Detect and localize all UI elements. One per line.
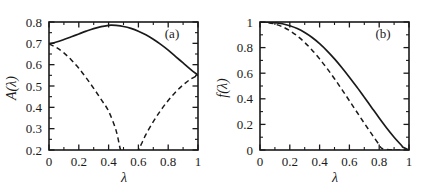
x-tick-label: 0.2 [71, 154, 87, 169]
y-tick-label: 0.3 [26, 121, 42, 136]
y-tick-label: 0.6 [237, 66, 254, 81]
panel-b-axes [260, 22, 409, 150]
x-tick-label: 0.8 [371, 154, 387, 169]
x-tick-label: 0 [46, 154, 53, 169]
panel-a-tag: (a) [165, 26, 179, 41]
x-tick-label: 0.6 [341, 154, 358, 169]
panel-b-tag: (b) [375, 26, 390, 41]
panel-b-ylabel: f(λ) [215, 78, 231, 98]
x-tick-label: 0.6 [130, 154, 147, 169]
x-tick-label: 1 [406, 154, 413, 169]
y-tick-label: 0.8 [237, 40, 253, 55]
x-tick-label: 0 [257, 154, 264, 169]
x-tick-label: 0.4 [100, 154, 117, 169]
panel-a-xlabel: λ [120, 170, 127, 185]
x-tick-label: 0.4 [311, 154, 328, 169]
y-tick-label: 0.5 [26, 79, 42, 94]
panel-a-svg: 00.20.40.60.810.20.30.40.50.60.70.8 (a) … [0, 0, 211, 192]
panel-a-curves [49, 25, 198, 158]
y-tick-label: 1 [247, 15, 254, 30]
curve-dashed [49, 44, 198, 158]
panel-b-xlabel: λ [331, 170, 338, 185]
x-tick-label: 0.2 [282, 154, 298, 169]
panel-a-ylabel: A(λ) [4, 76, 20, 101]
curve-solid [260, 22, 409, 150]
x-tick-label: 0.8 [160, 154, 176, 169]
y-tick-label: 0.2 [26, 143, 42, 158]
y-tick-label: 0.4 [237, 91, 254, 106]
curve-dashed [260, 22, 409, 150]
y-tick-label: 0.7 [26, 36, 43, 51]
y-tick-label: 0.6 [26, 57, 43, 72]
panel-a-axes [49, 22, 198, 150]
y-tick-label: 0.2 [237, 117, 253, 132]
y-tick-label: 0.4 [26, 100, 43, 115]
figure-container: 00.20.40.60.810.20.30.40.50.60.70.8 (a) … [0, 0, 422, 192]
y-tick-label: 0 [247, 143, 254, 158]
y-tick-label: 0.8 [26, 15, 42, 30]
panel-b-curves [260, 22, 409, 150]
x-tick-label: 1 [195, 154, 202, 169]
panel-b-svg: 00.20.40.60.8100.20.40.60.81 (b) λ f(λ) [211, 0, 422, 192]
panel-b: 00.20.40.60.8100.20.40.60.81 (b) λ f(λ) [211, 0, 422, 192]
panel-a: 00.20.40.60.810.20.30.40.50.60.70.8 (a) … [0, 0, 211, 192]
